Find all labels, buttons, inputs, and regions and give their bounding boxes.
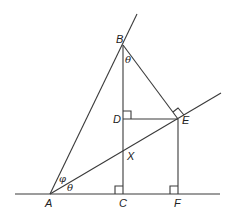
angle-phi-A: φ [59, 173, 66, 184]
label-D: D [113, 113, 121, 125]
line-BE [123, 45, 178, 119]
right-angle-F [170, 186, 178, 194]
angle-theta-B: θ [125, 54, 131, 65]
label-C: C [119, 197, 127, 209]
right-angle-D [123, 111, 131, 119]
label-B: B [116, 33, 123, 45]
label-X: X [126, 150, 135, 162]
label-F: F [174, 197, 182, 209]
line-AE [50, 93, 221, 194]
label-E: E [182, 114, 190, 126]
angle-theta-A: θ [67, 182, 73, 193]
geometry-diagram: B D E X A C F θ θ φ [0, 0, 232, 220]
line-AB [50, 14, 137, 194]
label-A: A [44, 197, 52, 209]
right-angle-C [115, 186, 123, 194]
